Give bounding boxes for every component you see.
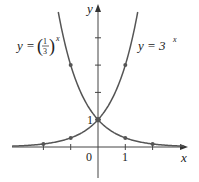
y-axis-arrow-icon [95, 4, 101, 12]
svg-text:y = 3: y = 3 [136, 38, 166, 53]
origin-label: 0 [86, 150, 92, 164]
label-left-exp: x [55, 34, 60, 43]
data-point [69, 63, 73, 67]
label-right-prefix: y = 3 [136, 38, 166, 53]
data-point [123, 63, 127, 67]
label-left-den: 3 [43, 47, 47, 56]
x-tick-label-1: 1 [122, 150, 128, 164]
svg-text:y =: y = [15, 38, 35, 53]
x-axis-label: x [180, 150, 187, 165]
y-tick-label-1: 1 [87, 113, 93, 127]
exponential-functions-graph: y x 0 1 1 y = ( 1 3 ) x y = 3 x [0, 0, 199, 182]
data-point [95, 117, 100, 122]
label-left-num: 1 [43, 37, 47, 46]
y-axis-label: y [85, 1, 93, 16]
data-point [69, 136, 73, 140]
label-three-power-x: y = 3 x [136, 35, 177, 53]
paren-close: ) [49, 36, 55, 57]
data-point [41, 142, 45, 146]
plot-area: y x 0 1 1 y = ( 1 3 ) x y = 3 x [0, 0, 199, 182]
data-point [151, 142, 155, 146]
label-right-exp: x [172, 35, 177, 44]
label-left-prefix: y = [15, 38, 35, 53]
label-one-third-power-x: y = ( 1 3 ) x [15, 34, 60, 57]
data-point [123, 136, 127, 140]
